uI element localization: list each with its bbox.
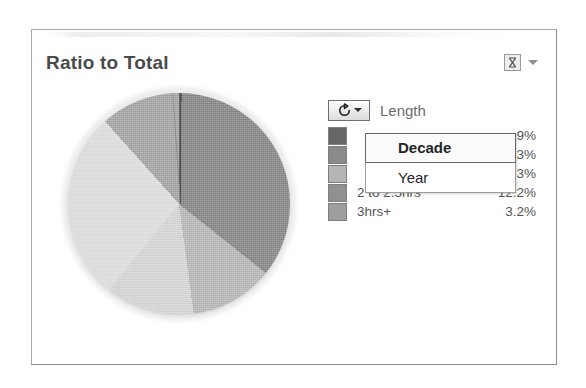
legend-row: 3hrs+3.2% <box>328 202 538 221</box>
legend-value: .9% <box>513 128 538 143</box>
legend-value: 3.2% <box>505 204 538 219</box>
pie-chart <box>60 85 300 323</box>
legend-swatch <box>328 203 347 221</box>
menu-item-year[interactable]: Year <box>366 163 515 192</box>
pie-separator <box>180 93 181 204</box>
filter-icon[interactable] <box>504 54 521 71</box>
scan-artifact-band <box>44 32 514 37</box>
chevron-down-icon[interactable] <box>528 60 538 65</box>
legend-swatch <box>328 127 347 145</box>
legend-title: Length <box>380 102 426 119</box>
legend-swatch <box>328 146 347 164</box>
legend-swatch <box>328 165 347 183</box>
menu-item-decade[interactable]: Decade <box>365 133 516 163</box>
page-title: Ratio to Total <box>46 52 169 74</box>
legend-value: 3% <box>516 166 538 181</box>
legend: Length .9%.3%3%2 to 2.5hrs12.2%3hrs+3.2%… <box>328 98 538 221</box>
rotate-refresh-icon <box>337 103 352 118</box>
ratio-to-total-card: Ratio to Total Length .9%.3%3%2 to 2.5h <box>31 29 557 365</box>
legend-value: .3% <box>513 147 538 162</box>
rotate-refresh-button[interactable] <box>328 100 370 121</box>
length-dropdown-menu[interactable]: DecadeYear <box>365 133 516 193</box>
legend-swatch <box>328 184 347 202</box>
legend-header: Length <box>328 98 538 122</box>
legend-label: 3hrs+ <box>357 204 505 219</box>
caret-down-icon[interactable] <box>354 108 362 112</box>
header-tool-group[interactable] <box>504 54 538 71</box>
